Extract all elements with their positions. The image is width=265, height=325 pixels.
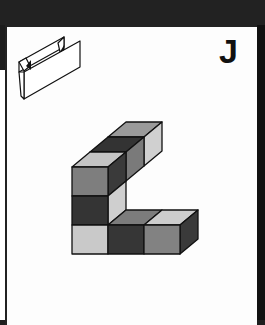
cube-structure-figure [0,0,265,320]
